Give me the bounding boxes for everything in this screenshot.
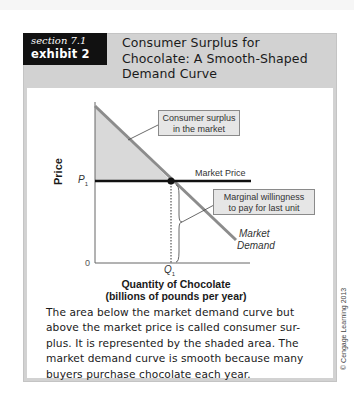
q1-label: Q1 <box>164 264 175 277</box>
callout-line: Consumer surplus <box>159 113 239 124</box>
caption-line: market demand curve is smooth because ma… <box>46 351 314 366</box>
consumer-surplus-callout: Consumer surplus in the market <box>158 110 240 136</box>
surplus-leader-line <box>128 124 160 140</box>
callout-line: to pay for last unit <box>214 203 314 214</box>
market-demand-label: Market Demand <box>237 228 275 252</box>
caption-line: plus. It is represented by the shaded ar… <box>46 336 314 351</box>
p-letter: P <box>78 174 85 185</box>
demand-label-line: Market <box>237 228 275 240</box>
q-letter: Q <box>164 264 172 275</box>
q-subscript: 1 <box>172 271 175 277</box>
origin-label: 0 <box>85 258 90 268</box>
copyright-notice: © Cengage Learning 2013 <box>340 288 347 370</box>
equilibrium-point <box>168 178 175 185</box>
demand-label-line: Demand <box>237 240 275 252</box>
callout-line: in the market <box>159 124 239 135</box>
caption-line: The area below the market demand curve b… <box>46 305 314 320</box>
callout-line: Marginal willingness <box>214 192 314 203</box>
p1-label: P1 <box>78 174 88 187</box>
market-price-label: Market Price <box>195 168 246 178</box>
y-axis-label: Price <box>52 158 64 185</box>
x-axis-label-line: (billions of pounds per year) <box>96 290 256 302</box>
x-axis-label: Quantity of Chocolate (billions of pound… <box>96 278 256 302</box>
caption-line: above the market price is called consume… <box>46 320 314 335</box>
caption-line: buyers purchase chocolate each year. <box>46 367 314 382</box>
exhibit-caption: The area below the market demand curve b… <box>46 305 314 382</box>
marginal-brace <box>176 185 182 262</box>
p-subscript: 1 <box>85 181 88 187</box>
marginal-willingness-callout: Marginal willingness to pay for last uni… <box>213 189 315 215</box>
x-axis-label-line: Quantity of Chocolate <box>96 278 256 290</box>
